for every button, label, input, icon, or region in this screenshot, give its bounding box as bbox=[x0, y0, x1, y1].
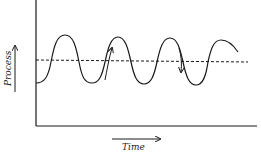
mean-line bbox=[36, 60, 248, 62]
x-axis-label: Time bbox=[122, 142, 145, 152]
up-arrow-icon bbox=[105, 48, 112, 80]
process-time-diagram: Process Time bbox=[0, 0, 261, 154]
y-axis-label: Process bbox=[3, 50, 13, 87]
